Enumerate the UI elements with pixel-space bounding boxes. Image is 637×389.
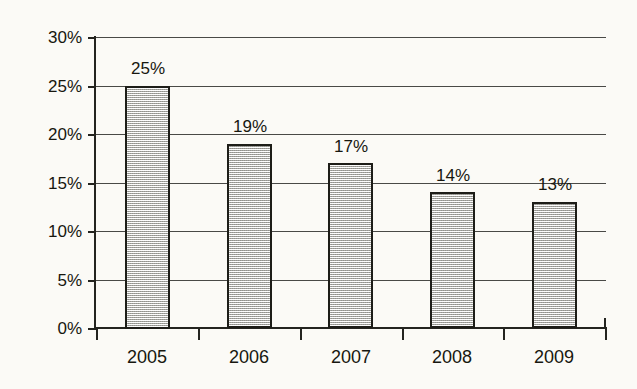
y-axis-labels: 30% 25% 20% 15% 10% 5% 0%: [16, 0, 82, 389]
bar-2007[interactable]: [328, 163, 373, 328]
x-axis-label-2009: 2009: [519, 348, 589, 366]
y-axis-label-20: 20%: [26, 126, 82, 143]
y-tick-20: [88, 134, 96, 136]
x-tick-0: [96, 329, 98, 340]
x-tick-3: [402, 329, 404, 340]
y-tick-15: [88, 183, 96, 185]
bar-value-2006: 19%: [215, 118, 285, 135]
bar-value-2007: 17%: [316, 138, 386, 155]
x-tick-2: [300, 329, 302, 340]
bar-value-2005: 25%: [113, 60, 183, 77]
bar-2005[interactable]: [125, 86, 170, 329]
x-tick-1: [198, 329, 200, 340]
x-axis-label-2007: 2007: [316, 348, 386, 366]
bar-value-2009: 13%: [520, 176, 590, 193]
y-tick-30: [88, 37, 96, 39]
x-axis-endcap: [604, 318, 606, 329]
x-tick-4: [503, 329, 505, 340]
y-axis-label-0: 0%: [26, 320, 82, 337]
y-axis-label-25: 25%: [26, 78, 82, 95]
bar-chart: 30% 25% 20% 15% 10% 5% 0% 25% 19% 17% 14…: [0, 0, 637, 389]
bar-2006[interactable]: [227, 144, 272, 328]
y-axis-label-5: 5%: [26, 272, 82, 289]
x-axis-label-2008: 2008: [417, 348, 487, 366]
y-tick-0: [88, 328, 96, 330]
gridline-20: [96, 134, 606, 135]
bar-value-2008: 14%: [418, 167, 488, 184]
y-tick-5: [88, 280, 96, 282]
y-tick-25: [88, 86, 96, 88]
y-tick-10: [88, 231, 96, 233]
bar-2009[interactable]: [532, 202, 577, 328]
gridline-30: [96, 37, 606, 38]
x-tick-5: [605, 329, 607, 340]
y-axis-label-15: 15%: [26, 175, 82, 192]
x-axis-label-2006: 2006: [214, 348, 284, 366]
bar-2008[interactable]: [430, 192, 475, 328]
y-axis-label-10: 10%: [26, 223, 82, 240]
y-axis-label-30: 30%: [26, 29, 82, 46]
gridline-25: [96, 86, 606, 87]
x-axis-label-2005: 2005: [112, 348, 182, 366]
